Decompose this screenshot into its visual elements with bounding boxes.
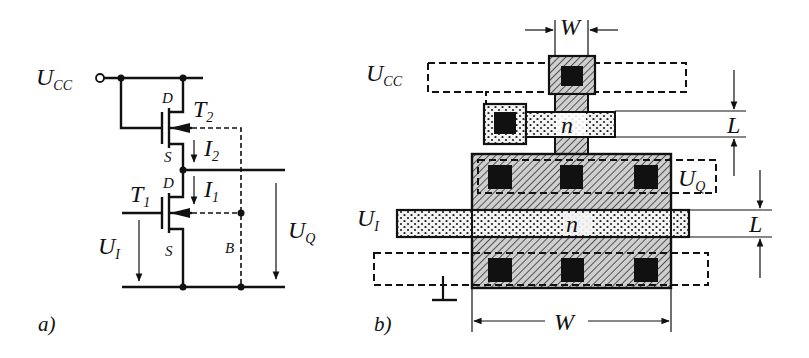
bulk-label: B (225, 240, 234, 256)
uq-label: UQ (288, 217, 315, 246)
i1-label: I1 (203, 176, 219, 205)
ucc-label: UCC (36, 64, 73, 93)
t1-bulk-arrow-icon (170, 208, 190, 218)
l-bottom-label: L (748, 211, 762, 237)
l-top-label: L (726, 112, 740, 138)
caption-b: b) (374, 312, 392, 336)
uq-layout-label: UQ (678, 165, 705, 194)
n-label-bottom: n (566, 211, 578, 237)
circuit-schematic: UCC D T2 S I2 D T1 S (36, 64, 315, 336)
t1-label: T1 (130, 181, 150, 210)
input-poly-gate (397, 210, 689, 237)
t1-source-label: S (165, 243, 173, 259)
w-top-label: W (560, 14, 582, 40)
t2-source-label: S (164, 149, 172, 165)
ucc-terminal (96, 74, 104, 82)
nmos-inverter-figure: UCC D T2 S I2 D T1 S (0, 0, 809, 358)
t2-label: T2 (193, 96, 213, 125)
caption-a: a) (38, 312, 56, 336)
w-bottom-label: W (554, 309, 576, 335)
t2-bulk-arrow-icon (170, 123, 190, 133)
ui-label: UI (98, 233, 121, 262)
t1-drain-label: D (162, 175, 174, 191)
ic-layout: UCC n L W UQ (357, 14, 772, 336)
t2-gate-wire (121, 78, 162, 128)
n-label-top: n (561, 112, 573, 138)
ucc-layout-label: UCC (366, 60, 403, 89)
i2-label: I2 (203, 135, 219, 164)
t2-drain-label: D (161, 90, 173, 106)
ui-layout-label: UI (357, 205, 380, 234)
